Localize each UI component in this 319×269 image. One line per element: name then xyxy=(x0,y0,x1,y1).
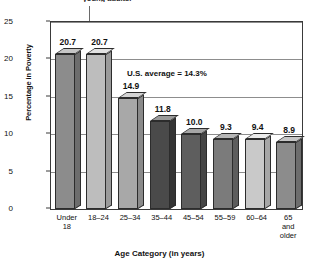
bar-value-label: 20.7 xyxy=(51,37,85,47)
bar-side-face xyxy=(233,136,239,209)
bar-front-face xyxy=(276,142,296,209)
bar-value-label: 8.9 xyxy=(272,125,306,135)
bar-side-face xyxy=(201,130,207,209)
poverty-by-age-bar-chart: young adults. Percentage in Poverty 20.7… xyxy=(0,0,319,269)
y-axis-tick-label: 10 xyxy=(0,129,13,138)
bar-value-label: 11.8 xyxy=(146,104,180,114)
bar-side-face xyxy=(75,50,81,209)
y-axis-tick-mark xyxy=(46,58,50,59)
bar-side-face xyxy=(106,50,112,209)
us-average-annotation: U.S. average = 14.3% xyxy=(127,69,207,78)
x-axis-title: Age Category (in years) xyxy=(0,249,319,258)
y-axis-tick-label: 20 xyxy=(0,54,13,63)
plot-area: 20.720.714.911.810.09.39.48.9 U.S. avera… xyxy=(50,21,303,210)
bar xyxy=(150,121,170,209)
bar-front-face xyxy=(55,54,75,209)
y-axis-tick-mark xyxy=(46,133,50,134)
bar-front-face xyxy=(181,134,201,209)
y-axis-tick-label: 15 xyxy=(0,91,13,100)
bar xyxy=(86,54,106,209)
y-axis-tick-mark xyxy=(46,21,50,22)
chart-caption: young adults. xyxy=(52,0,162,2)
x-axis-tick-label: 65andolder xyxy=(268,213,308,240)
y-axis-tick-mark xyxy=(46,95,50,96)
bar xyxy=(118,98,138,209)
bar-side-face xyxy=(265,135,271,209)
y-axis-tick-mark xyxy=(46,208,50,209)
bar-front-face xyxy=(245,139,265,209)
bar xyxy=(55,54,75,209)
bar-value-label: 20.7 xyxy=(82,37,116,47)
bar-value-label: 9.4 xyxy=(241,122,275,132)
y-axis-tick-mark xyxy=(46,170,50,171)
bar-series: 20.720.714.911.810.09.39.48.9 xyxy=(51,22,302,209)
y-axis-tick-label: 25 xyxy=(0,17,13,26)
bar-value-label: 10.0 xyxy=(177,117,211,127)
bar-front-face xyxy=(213,139,233,209)
y-axis-tick-label: 0 xyxy=(0,204,13,213)
bar-front-face xyxy=(150,121,170,209)
bar xyxy=(181,134,201,209)
bar xyxy=(245,139,265,209)
bar-side-face xyxy=(296,139,302,209)
bar xyxy=(213,139,233,209)
bar-value-label: 9.3 xyxy=(209,122,243,132)
bar-front-face xyxy=(86,54,106,209)
bar-side-face xyxy=(138,94,144,209)
y-axis-tick-label: 5 xyxy=(0,166,13,175)
bar-value-label: 14.9 xyxy=(114,81,148,91)
bar-front-face xyxy=(118,98,138,209)
y-axis-title: Percentage in Poverty xyxy=(24,8,33,158)
bar xyxy=(276,142,296,209)
bar-side-face xyxy=(170,117,176,209)
